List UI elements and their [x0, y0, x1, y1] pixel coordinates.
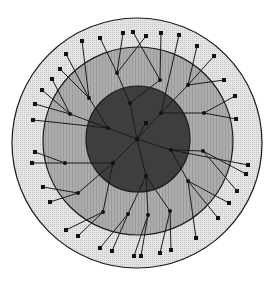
hub-node — [111, 161, 115, 165]
hub-node — [126, 212, 130, 216]
leaf-node — [33, 102, 37, 106]
leaf-node — [76, 234, 80, 238]
leaf-node — [177, 33, 181, 37]
hub-node — [168, 209, 172, 213]
leaf-node — [48, 200, 52, 204]
leaf-node — [64, 52, 68, 56]
hub-node — [68, 112, 72, 116]
leaf-node — [233, 94, 237, 98]
leaf-node — [246, 163, 250, 167]
radial-tree-diagram — [0, 0, 275, 286]
leaf-node — [132, 254, 136, 258]
leaf-node — [222, 78, 226, 82]
leaf-node — [110, 249, 114, 253]
leaf-node — [80, 39, 84, 43]
hub-node — [169, 148, 173, 152]
leaf-node — [98, 246, 102, 250]
hub-node — [186, 83, 190, 87]
leaf-node — [244, 172, 248, 176]
leaf-node — [31, 118, 35, 122]
leaf-node — [158, 251, 162, 255]
hub-node — [201, 149, 205, 153]
leaf-node — [131, 30, 135, 34]
leaf-node — [33, 150, 37, 154]
leaf-node — [227, 201, 231, 205]
leaf-node — [41, 185, 45, 189]
leaf-node — [40, 88, 44, 92]
leaf-node — [169, 248, 173, 252]
hub-node — [87, 96, 91, 100]
hub-node — [144, 174, 148, 178]
hub-node — [186, 179, 190, 183]
hub-node — [128, 101, 132, 105]
leaf-node — [50, 77, 54, 81]
hub-node — [101, 210, 105, 214]
hub-node — [146, 213, 150, 217]
leaf-node — [58, 67, 62, 71]
leaf-node — [144, 121, 148, 125]
hub-node — [115, 71, 119, 75]
leaf-node — [30, 161, 34, 165]
leaf-node — [194, 236, 198, 240]
leaf-node — [144, 34, 148, 38]
hub-node — [159, 111, 163, 115]
hub-node — [63, 161, 67, 165]
leaf-node — [98, 36, 102, 40]
leaf-node — [234, 117, 238, 121]
leaf-node — [159, 31, 163, 35]
leaf-node — [139, 254, 143, 258]
hub-node — [158, 78, 162, 82]
hub-node — [106, 126, 110, 130]
leaf-node — [235, 189, 239, 193]
hub-node — [76, 191, 80, 195]
leaf-node — [212, 54, 216, 58]
leaf-node — [64, 228, 68, 232]
hub-node — [202, 111, 206, 115]
root-node — [135, 137, 139, 141]
leaf-node — [195, 44, 199, 48]
leaf-node — [216, 216, 220, 220]
rings-layer — [12, 18, 262, 268]
leaf-node — [121, 31, 125, 35]
